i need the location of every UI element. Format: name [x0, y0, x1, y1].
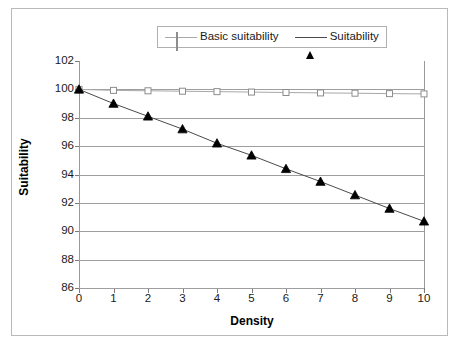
series-basic-suitability	[76, 86, 427, 97]
y-tick-label: 102	[40, 55, 74, 67]
data-point-triangle-icon	[212, 139, 221, 147]
x-tick-label: 2	[133, 293, 163, 305]
data-point-square-icon	[421, 91, 427, 97]
data-point-square-icon	[283, 90, 289, 96]
x-tick-label: 1	[99, 293, 129, 305]
data-point-square-icon	[387, 91, 393, 97]
y-tick-label: 88	[40, 254, 74, 266]
x-tick-label: 3	[168, 293, 198, 305]
x-axis-title: Density	[79, 314, 425, 328]
x-tick-label: 7	[306, 293, 336, 305]
y-tick-label: 86	[40, 282, 74, 294]
legend-marker-open-square-icon	[165, 31, 197, 43]
x-tick-label: 9	[375, 293, 405, 305]
y-tick-label: 92	[40, 197, 74, 209]
x-tick-mark	[114, 289, 115, 293]
legend-entry-suitability: Suitability	[295, 31, 379, 43]
x-tick-mark	[217, 289, 218, 293]
data-point-triangle-icon	[281, 164, 290, 172]
x-tick-label: 6	[271, 293, 301, 305]
series-suitability	[74, 85, 428, 225]
x-tick-mark	[183, 289, 184, 293]
x-tick-mark	[79, 289, 80, 293]
y-tick-label: 90	[40, 225, 74, 237]
x-tick-label: 4	[202, 293, 232, 305]
x-tick-mark	[252, 289, 253, 293]
x-tick-label: 8	[340, 293, 370, 305]
data-point-square-icon	[180, 88, 186, 94]
x-tick-mark	[390, 289, 391, 293]
y-axis-title: Suitability	[17, 117, 31, 217]
data-point-triangle-icon	[247, 151, 256, 159]
chart-figure: Basic suitability Suitability 1021009896…	[0, 0, 460, 364]
y-tick-label: 100	[40, 83, 74, 95]
data-point-triangle-icon	[178, 125, 187, 133]
data-point-square-icon	[318, 90, 324, 96]
data-point-triangle-icon	[316, 177, 325, 185]
y-axis-tick-labels: 10210098969492908886	[36, 61, 74, 288]
legend-label-basic-suitability: Basic suitability	[200, 31, 279, 43]
x-tick-label: 10	[409, 293, 439, 305]
data-point-square-icon	[111, 87, 117, 93]
y-tick-label: 94	[40, 169, 74, 181]
y-tick-label: 96	[40, 140, 74, 152]
data-point-square-icon	[145, 88, 151, 94]
data-point-triangle-icon	[109, 99, 118, 107]
data-series-layer	[79, 61, 424, 288]
legend-label-suitability: Suitability	[330, 31, 379, 43]
y-tick-label: 98	[40, 112, 74, 124]
data-point-triangle-icon	[143, 112, 152, 120]
data-point-triangle-icon	[350, 190, 359, 198]
data-point-square-icon	[352, 90, 358, 96]
legend-marker-filled-triangle-icon	[295, 31, 327, 43]
x-axis-tick-labels: 012345678910	[79, 293, 425, 309]
x-tick-mark	[355, 289, 356, 293]
x-tick-mark	[286, 289, 287, 293]
x-tick-label: 0	[64, 293, 94, 305]
legend-entry-basic-suitability: Basic suitability	[165, 31, 279, 43]
data-point-square-icon	[214, 89, 220, 95]
chart-legend: Basic suitability Suitability	[157, 26, 387, 48]
x-tick-mark	[148, 289, 149, 293]
data-point-square-icon	[249, 89, 255, 95]
x-tick-mark	[321, 289, 322, 293]
data-point-triangle-icon	[385, 204, 394, 212]
x-tick-label: 5	[237, 293, 267, 305]
x-tick-mark	[424, 289, 425, 293]
